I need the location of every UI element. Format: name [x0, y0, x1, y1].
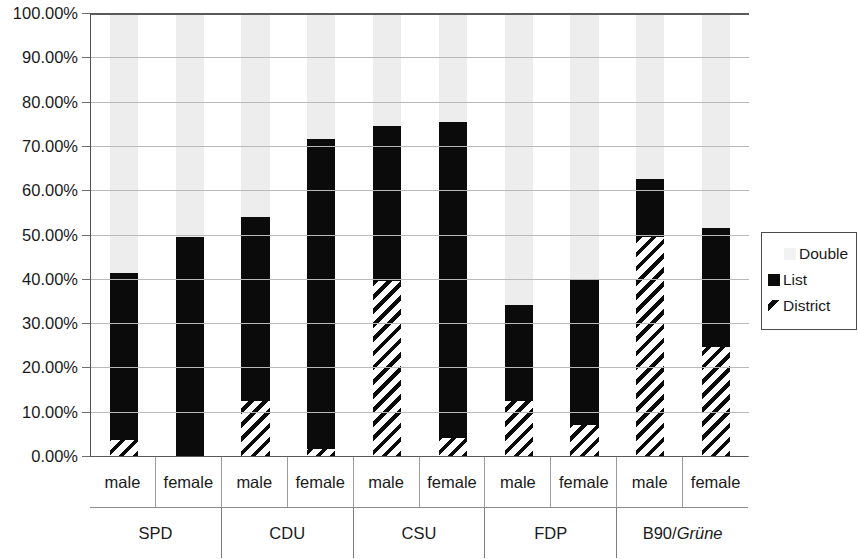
group-label-plain: B90/ [643, 524, 677, 543]
bar-segment-list [307, 139, 335, 449]
x-tick-label-female-9: female [683, 457, 748, 507]
bar-segment-list [439, 122, 467, 439]
x-group-label-B90Grne: B90/Grüne [617, 508, 748, 558]
x-tick-label-male-4: male [354, 457, 420, 507]
y-tick-mark [82, 57, 90, 58]
y-tick-label: 40.00% [22, 271, 78, 288]
bar-segment-double [241, 13, 269, 217]
bar-segment-district [505, 401, 533, 456]
legend-item-district: District [768, 293, 850, 319]
legend-label-double: Double [799, 245, 848, 263]
x-tick-label-female-1: female [156, 457, 222, 507]
bar-segment-district [570, 425, 598, 456]
bar-segment-district [110, 440, 138, 456]
bar-segment-double [373, 13, 401, 126]
grid-line [91, 13, 749, 15]
group-label-italic: Grüne [677, 524, 723, 543]
x-axis-gender-row: malefemalemalefemalemalefemalemalefemale… [90, 457, 748, 507]
y-tick-label: 30.00% [22, 315, 78, 332]
grid-line [91, 412, 749, 413]
y-tick-mark [82, 323, 90, 324]
bar-segment-double [176, 13, 204, 237]
grid-line [91, 323, 749, 324]
bar-segment-list [636, 179, 664, 237]
district-swatch-icon [768, 300, 780, 312]
bar-segment-district [307, 449, 335, 456]
x-group-label-SPD: SPD [90, 508, 222, 558]
x-axis-party-row: SPDCDUCSUFDPB90/Grüne [90, 507, 748, 558]
y-tick-label: 90.00% [22, 49, 78, 66]
bar-segment-double [439, 13, 467, 122]
bar-segment-district [636, 237, 664, 456]
bar-segment-district [373, 281, 401, 456]
y-tick-mark [82, 367, 90, 368]
x-group-label-FDP: FDP [485, 508, 617, 558]
grid-line [91, 146, 749, 147]
y-tick-mark [82, 235, 90, 236]
bar-segment-double [307, 13, 335, 139]
grid-line [91, 190, 749, 191]
bar-segment-district [702, 347, 730, 456]
x-tick-label-male-8: male [617, 457, 683, 507]
x-tick-label-female-5: female [420, 457, 486, 507]
y-tick-mark [82, 190, 90, 191]
bar-segment-list [505, 305, 533, 400]
legend-label-list: List [783, 271, 807, 289]
bar-segment-double [636, 13, 664, 179]
grid-line [91, 279, 749, 280]
plot-area [90, 13, 748, 456]
grid-line [91, 57, 749, 58]
x-group-label-CSU: CSU [354, 508, 486, 558]
bar-segment-list [570, 279, 598, 425]
bar-segment-list [176, 237, 204, 456]
bar-segment-list [702, 228, 730, 348]
x-tick-label-male-2: male [222, 457, 288, 507]
y-tick-label: 50.00% [22, 226, 78, 243]
y-tick-label: 80.00% [22, 93, 78, 110]
y-tick-label: 70.00% [22, 138, 78, 155]
y-tick-mark [82, 456, 90, 457]
grid-line [91, 102, 749, 103]
double-swatch-icon [784, 248, 796, 260]
legend-item-double: Double [768, 241, 850, 267]
bar-segment-list [241, 217, 269, 401]
chart-legend: Double List District [761, 232, 857, 330]
y-tick-label: 60.00% [22, 182, 78, 199]
stacked-bar-chart: 0.00%10.00%20.00%30.00%40.00%50.00%60.00… [0, 0, 859, 559]
y-tick-label: 10.00% [22, 403, 78, 420]
bar-segment-double [702, 13, 730, 228]
y-tick-mark [82, 102, 90, 103]
x-tick-label-male-6: male [485, 457, 551, 507]
bar-segment-list [373, 126, 401, 281]
x-group-label-CDU: CDU [222, 508, 354, 558]
legend-item-list: List [768, 267, 850, 293]
y-tick-label: 100.00% [13, 5, 78, 22]
x-tick-label-male-0: male [90, 457, 156, 507]
y-tick-mark [82, 13, 90, 14]
grid-line [91, 367, 749, 368]
y-tick-label: 20.00% [22, 359, 78, 376]
y-tick-mark [82, 279, 90, 280]
bar-segment-district [439, 438, 467, 456]
y-tick-mark [82, 146, 90, 147]
y-tick-mark [82, 412, 90, 413]
x-tick-label-female-7: female [551, 457, 617, 507]
grid-line [91, 235, 749, 236]
x-tick-label-female-3: female [288, 457, 354, 507]
bar-segment-district [241, 401, 269, 456]
y-tick-label: 0.00% [31, 448, 78, 465]
x-axis: malefemalemalefemalemalefemalemalefemale… [90, 456, 748, 557]
legend-label-district: District [783, 297, 830, 315]
y-axis: 0.00%10.00%20.00%30.00%40.00%50.00%60.00… [0, 0, 86, 559]
bar-segment-list [110, 273, 138, 440]
list-swatch-icon [768, 274, 780, 286]
